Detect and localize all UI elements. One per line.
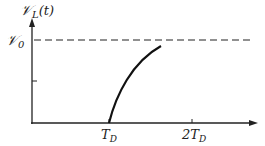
y-axis-label: 𝒱L(t): [20, 2, 54, 20]
x-tick-label-td: TD: [101, 127, 117, 144]
x-tick-label-2td: 2TD: [181, 127, 206, 144]
voltage-curve: [109, 46, 161, 123]
voltage-plot: 𝒱L(t) 𝒱0 TD 2TD: [0, 0, 265, 146]
x-axis-arrowhead-icon: [249, 120, 258, 126]
v0-label: 𝒱0: [6, 32, 25, 50]
